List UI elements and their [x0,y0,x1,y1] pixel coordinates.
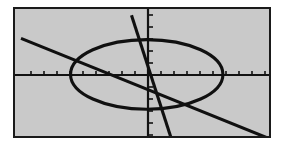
plot-area [15,9,269,136]
graphing-calculator-screen [13,7,271,138]
